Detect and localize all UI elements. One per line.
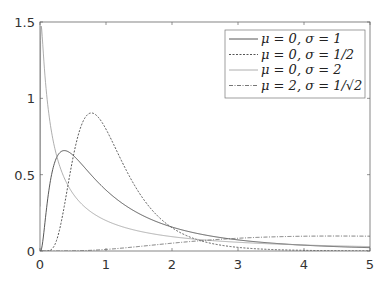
x-tick-label: 4: [300, 257, 308, 272]
x-tick-label: 3: [234, 257, 242, 272]
y-tick-label: 1.5: [14, 15, 35, 30]
legend: μ = 0, σ = 1μ = 0, σ = 1/2μ = 0, σ = 2μ …: [225, 30, 365, 98]
legend-label: μ = 2, σ = 1/√2: [261, 78, 362, 93]
x-tick-label: 2: [168, 257, 176, 272]
legend-label: μ = 0, σ = 1: [261, 31, 341, 46]
y-tick-label: 0: [27, 244, 35, 259]
lognormal-pdf-chart: 01234500.511.5 μ = 0, σ = 1μ = 0, σ = 1/…: [0, 0, 380, 285]
y-tick-label: 1: [27, 91, 35, 106]
series-line-3: [40, 236, 370, 251]
legend-label: μ = 0, σ = 1/2: [261, 47, 354, 62]
y-tick-label: 0.5: [14, 168, 35, 183]
series-line-1: [40, 113, 370, 251]
x-tick-label: 1: [102, 257, 110, 272]
x-tick-label: 5: [366, 257, 374, 272]
x-tick-label: 0: [36, 257, 44, 272]
legend-label: μ = 0, σ = 2: [261, 62, 341, 77]
